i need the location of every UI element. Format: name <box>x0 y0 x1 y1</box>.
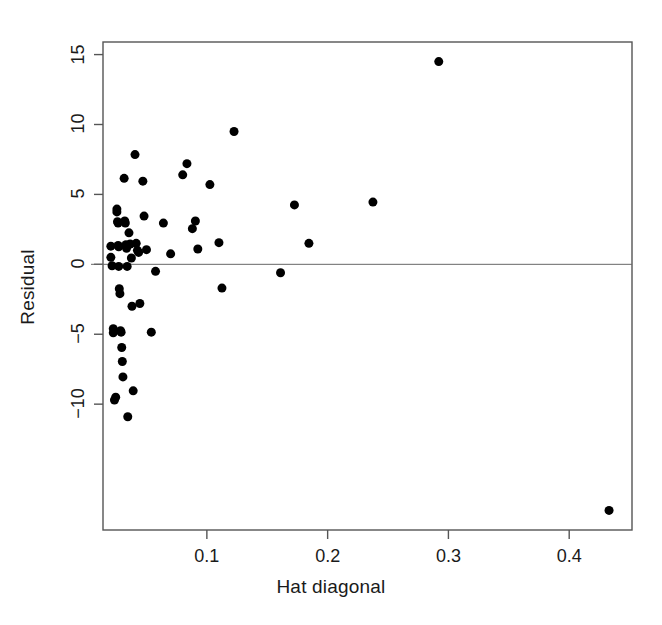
x-axis-title: Hat diagonal <box>0 576 662 598</box>
scatter-point <box>290 200 299 209</box>
scatter-point <box>123 262 132 271</box>
scatter-point <box>134 248 143 257</box>
scatter-point <box>151 267 160 276</box>
scatter-point <box>127 302 136 311</box>
scatter-point <box>605 506 614 515</box>
scatter-point <box>142 245 151 254</box>
scatter-point <box>123 412 132 421</box>
scatter-point <box>117 328 126 337</box>
scatter-point <box>368 198 377 207</box>
scatter-point <box>106 253 115 262</box>
scatter-point <box>205 180 214 189</box>
x-tick-label: 0.4 <box>539 546 599 567</box>
scatter-point <box>121 219 130 228</box>
y-tick-label: 15 <box>68 24 89 84</box>
scatter-point <box>434 57 443 66</box>
scatter-point <box>276 268 285 277</box>
data-points <box>106 57 613 515</box>
scatter-point <box>166 249 175 258</box>
scatter-point <box>182 159 191 168</box>
scatter-point <box>115 289 124 298</box>
scatter-point <box>214 238 223 247</box>
scatter-point <box>120 174 129 183</box>
y-tick-label: 0 <box>68 234 89 294</box>
scatter-point <box>217 284 226 293</box>
scatter-plot-figure: Hat diagonal Residual 0.10.20.30.4 15105… <box>0 0 662 625</box>
y-tick-label: −10 <box>68 374 89 434</box>
scatter-point <box>147 328 156 337</box>
plot-canvas <box>0 0 662 625</box>
scatter-point <box>129 386 138 395</box>
scatter-point <box>118 372 127 381</box>
x-tick-label: 0.3 <box>418 546 478 567</box>
scatter-point <box>118 357 127 366</box>
scatter-point <box>112 207 121 216</box>
scatter-point <box>117 343 126 352</box>
scatter-point <box>178 170 187 179</box>
scatter-point <box>140 212 149 221</box>
scatter-point <box>138 177 147 186</box>
x-tick-label: 0.1 <box>177 546 237 567</box>
plot-frame <box>103 42 632 530</box>
scatter-point <box>124 228 133 237</box>
scatter-point <box>304 239 313 248</box>
scatter-point <box>127 254 136 263</box>
scatter-point <box>193 244 202 253</box>
scatter-point <box>111 393 120 402</box>
axis-ticks <box>94 55 569 539</box>
scatter-point <box>114 262 123 271</box>
scatter-point <box>159 219 168 228</box>
scatter-point <box>191 216 200 225</box>
y-tick-label: 10 <box>68 94 89 154</box>
y-tick-label: −5 <box>68 304 89 364</box>
scatter-point <box>135 299 144 308</box>
y-axis-title: Residual <box>17 217 39 357</box>
scatter-point <box>230 127 239 136</box>
x-tick-label: 0.2 <box>298 546 358 567</box>
scatter-point <box>188 224 197 233</box>
y-tick-label: 5 <box>68 164 89 224</box>
scatter-point <box>131 150 140 159</box>
